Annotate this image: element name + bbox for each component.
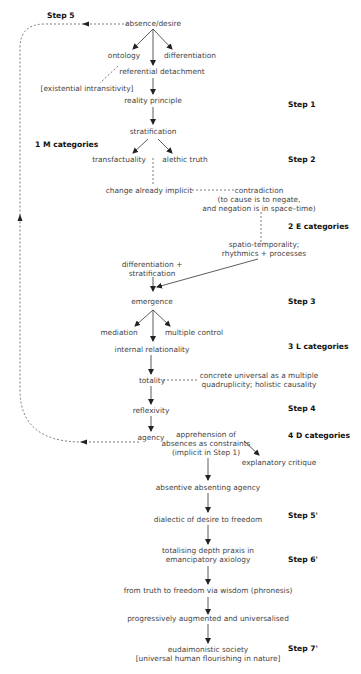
- node-progressively: progressively augmented and universalise…: [127, 614, 289, 623]
- node-absentive-absenting-agency: absentive absenting agency: [156, 483, 260, 492]
- node-dialectic: dialectic of desire to freedom: [154, 515, 262, 524]
- node-ontology: ontology: [108, 51, 140, 60]
- node-change-already-implicit: change already implicit: [106, 186, 193, 195]
- node-mediation: mediation: [100, 328, 137, 337]
- step-4-label: Step 4: [288, 404, 316, 413]
- node-emergence: emergence: [131, 297, 173, 306]
- node-differentiation: differentiation: [164, 51, 216, 60]
- node-internal-relationality: internal relationality: [115, 345, 190, 354]
- step-5-prime-label: Step 5': [288, 511, 318, 520]
- node-multiple-control: multiple control: [165, 328, 223, 337]
- node-spatio-temporality-1: spatio-temporality;: [229, 240, 300, 249]
- node-concrete-universal-2: quadruplicity; holistic causality: [202, 380, 317, 389]
- node-existential-intransitivity: [existential intransitivity]: [41, 84, 134, 93]
- m-categories-label: 1 M categories: [35, 140, 98, 149]
- step-3-label: Step 3: [288, 297, 316, 306]
- node-agency: agency: [138, 433, 165, 442]
- step-7-prime-label: Step 7': [288, 644, 318, 653]
- node-apprehension-3: (implicit in Step 1): [172, 448, 240, 457]
- node-reality-principle: reality principle: [124, 96, 182, 105]
- step-2-label: Step 2: [288, 155, 316, 164]
- d-categories-label: 4 D categories: [288, 431, 350, 440]
- step-5-label: Step 5: [47, 11, 75, 20]
- node-contradiction-note-1: (to cause is to negate,: [218, 195, 301, 204]
- node-eudaimonistic-2: [universal human flourishing in nature]: [136, 654, 281, 663]
- node-transfactuality: transfactuality: [92, 155, 146, 164]
- node-truth-to-freedom: from truth to freedom via wisdom (phrone…: [124, 586, 293, 595]
- l-categories-label: 3 L categories: [288, 342, 349, 351]
- node-spatio-temporality-2: rhythmics + processes: [222, 249, 306, 258]
- step-1-label: Step 1: [288, 100, 316, 109]
- node-stratification: stratification: [130, 127, 177, 136]
- node-eudaimonistic-1: eudaimonistic society: [168, 645, 249, 654]
- node-diff-strat-1: differentiation +: [122, 260, 183, 269]
- node-apprehension-1: apprehension of: [176, 430, 236, 439]
- node-apprehension-2: absences as constraints: [162, 439, 251, 448]
- node-totalising-2: emancipatory axiology: [166, 555, 251, 564]
- node-contradiction: contradiction: [235, 186, 284, 195]
- node-explanatory-critique: explanatory critique: [242, 458, 317, 467]
- node-diff-strat-2: stratification: [129, 269, 176, 278]
- node-referential-detachment: referential detachment: [119, 67, 204, 76]
- node-concrete-universal-1: concrete universal as a multiple: [200, 371, 319, 380]
- node-alethic-truth: alethic truth: [162, 155, 207, 164]
- node-reflexivity: reflexivity: [133, 406, 170, 415]
- node-absence-desire: absence/desire: [125, 19, 181, 28]
- e-categories-label: 2 E categories: [288, 222, 349, 231]
- node-totalising-1: totalising depth praxis in: [162, 546, 254, 555]
- node-totality: totality: [139, 376, 165, 385]
- node-contradiction-note-2: and negation is in space–time): [202, 204, 316, 213]
- step-6-prime-label: Step 6': [288, 555, 318, 564]
